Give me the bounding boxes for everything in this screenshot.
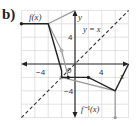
function-point (67, 76, 70, 79)
function-endpoint (20, 22, 23, 25)
inverse-endpoint (114, 116, 117, 119)
tick-y-neg4: −4 (64, 87, 74, 96)
arrow-left-icon (21, 62, 27, 67)
y-axis-label: y (77, 12, 82, 22)
tick-y-4: 4 (68, 33, 73, 42)
function-point (87, 76, 90, 79)
inverse-point (60, 49, 63, 52)
arrow-down-icon (73, 112, 78, 118)
x-axis-label: x (119, 71, 124, 81)
tick-x-neg4: −4 (36, 68, 46, 77)
figure: b) (0, 0, 140, 126)
inverse-label: f⁻¹(x) (81, 104, 100, 114)
graph: f(x) y y = x x f⁻¹(x) −4 4 4 −4 0 (0, 0, 140, 126)
identity-label: y = x (82, 24, 101, 34)
f-label: f(x) (29, 12, 42, 22)
origin-label: 0 (67, 66, 72, 75)
tick-x-4: 4 (99, 68, 104, 77)
